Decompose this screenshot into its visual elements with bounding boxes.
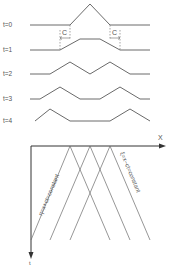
x-axis-arrow-icon — [159, 144, 166, 149]
wave-diagram: C C t=0 t=1 t=2 t=3 t=4 X t η=x+ct=const… — [0, 0, 174, 265]
speed-label-left: C — [62, 29, 67, 36]
waveform-t0 — [30, 4, 150, 25]
speed-markers — [60, 25, 120, 50]
waveform-t2 — [30, 62, 150, 74]
time-label-t0: t=0 — [3, 21, 13, 28]
time-label-t1: t=1 — [3, 46, 13, 53]
x-axis-label: X — [158, 134, 163, 141]
eta-characteristic-label: η=x+ct=constant — [37, 173, 60, 216]
waveform-t4 — [35, 109, 150, 121]
waveform-t1 — [30, 39, 150, 50]
t-axis-arrow-icon — [29, 252, 34, 259]
speed-label-right: C — [112, 29, 117, 36]
t-axis-label: t — [29, 260, 31, 265]
time-label-t3: t=3 — [3, 95, 13, 102]
time-label-t2: t=2 — [3, 70, 13, 77]
waveform-t3 — [30, 87, 150, 99]
time-label-t4: t=4 — [3, 117, 13, 124]
xi-characteristic-label: ξ=x−ct=constant — [119, 151, 142, 194]
